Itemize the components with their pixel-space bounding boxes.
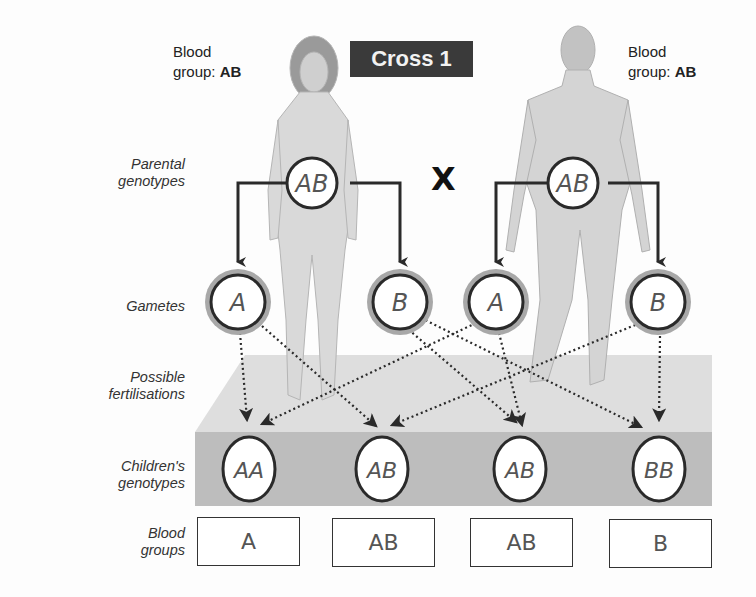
svg-text:AA: AA — [232, 458, 264, 483]
svg-text:AB: AB — [503, 458, 535, 483]
row-label-fertilisations: Possible fertilisations — [70, 369, 185, 403]
svg-text:AB: AB — [294, 170, 329, 198]
mother-genotype-circle: AB — [287, 158, 337, 208]
row-label-fertilisations-line1: Possible — [70, 369, 185, 386]
gamete-father-a: A — [463, 269, 529, 335]
mother-label-prefix: group: — [173, 63, 220, 80]
svg-text:A: A — [486, 289, 504, 317]
row-label-children-line2: genotypes — [70, 475, 185, 492]
father-blood-group-value: AB — [675, 63, 697, 80]
row-label-fertilisations-line2: fertilisations — [70, 386, 185, 403]
cross-title: Cross 1 — [350, 41, 473, 77]
child-blood-group-4: B — [609, 519, 712, 568]
row-label-parental-line2: genotypes — [70, 173, 185, 190]
svg-text:A: A — [228, 289, 246, 317]
father-label-prefix: group: — [628, 63, 675, 80]
gamete-mother-b: B — [367, 269, 433, 335]
father-genotype-circle: AB — [548, 158, 598, 208]
row-label-parental: Parental genotypes — [70, 156, 185, 190]
svg-text:B: B — [650, 289, 666, 317]
father-label-line1: Blood — [628, 42, 696, 62]
svg-text:BB: BB — [644, 458, 674, 483]
father-blood-group-label: Blood group: AB — [628, 42, 696, 82]
child-genotype-3: AB — [494, 437, 546, 501]
child-genotype-1: AA — [223, 437, 275, 501]
father-label-line2: group: AB — [628, 62, 696, 82]
mother-blood-group-value: AB — [220, 63, 242, 80]
gamete-father-b: B — [625, 269, 691, 335]
svg-text:B: B — [392, 289, 408, 317]
row-label-children-line1: Children's — [70, 458, 185, 475]
child-genotype-4: BB — [633, 437, 685, 501]
row-label-gametes-line1: Gametes — [70, 298, 185, 315]
child-blood-group-2: AB — [332, 518, 435, 567]
row-label-blood-groups-line2: groups — [70, 542, 185, 559]
child-blood-group-3: AB — [470, 518, 573, 567]
mother-label-line2: group: AB — [173, 62, 241, 82]
row-label-parental-line1: Parental — [70, 156, 185, 173]
female-figure — [268, 36, 358, 400]
cross-symbol: X — [431, 160, 456, 198]
mother-label-line1: Blood — [173, 42, 241, 62]
svg-text:AB: AB — [365, 458, 397, 483]
child-blood-group-1: A — [197, 517, 300, 566]
row-label-children: Children's genotypes — [70, 458, 185, 492]
child-genotype-2: AB — [356, 437, 408, 501]
row-label-blood-groups-line1: Blood — [70, 525, 185, 542]
row-label-gametes: Gametes — [70, 298, 185, 315]
gamete-mother-a: A — [205, 269, 271, 335]
svg-text:AB: AB — [555, 170, 590, 198]
mother-blood-group-label: Blood group: AB — [173, 42, 241, 82]
row-label-blood-groups: Blood groups — [70, 525, 185, 559]
